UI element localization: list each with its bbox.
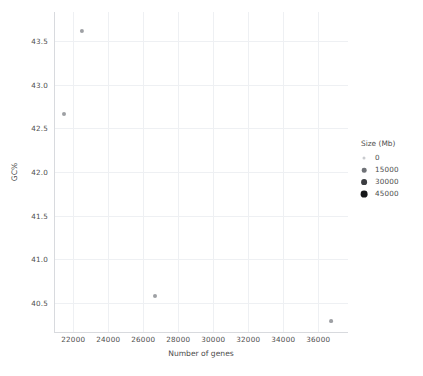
gridline-horizontal — [54, 85, 348, 86]
legend-entry[interactable]: 15000 — [361, 164, 421, 176]
legend-entry[interactable]: 45000 — [361, 188, 421, 200]
plot-area — [54, 12, 348, 332]
x-axis-tick-label: 24000 — [96, 335, 120, 344]
gridline-horizontal — [54, 303, 348, 304]
y-axis-title: GC% — [10, 163, 19, 181]
data-point[interactable] — [153, 294, 157, 298]
legend-entry-label: 0 — [375, 152, 380, 164]
y-axis-tick-label: 42.0 — [0, 168, 48, 177]
x-axis-title: Number of genes — [54, 349, 348, 358]
gridline-vertical — [318, 12, 319, 332]
x-axis-spine — [54, 332, 348, 333]
legend-entry-label: 45000 — [375, 188, 399, 200]
gridline-vertical — [283, 12, 284, 332]
legend-marker-icon — [361, 191, 368, 198]
x-axis-tick-label: 26000 — [131, 335, 155, 344]
gridline-vertical — [73, 12, 74, 332]
legend-title: Size (Mb) — [361, 139, 421, 148]
legend: Size (Mb) 0150003000045000 — [361, 139, 421, 200]
y-axis-tick-label: 42.5 — [0, 124, 48, 133]
x-axis-tick-label: 22000 — [61, 335, 85, 344]
x-axis-tick-label: 32000 — [236, 335, 260, 344]
gridline-vertical — [248, 12, 249, 332]
gridline-horizontal — [54, 172, 348, 173]
data-point[interactable] — [329, 319, 333, 323]
data-point[interactable] — [62, 112, 66, 116]
gridline-horizontal — [54, 259, 348, 260]
gridline-vertical — [143, 12, 144, 332]
legend-entry-label: 15000 — [375, 164, 399, 176]
y-axis-tick-label: 43.5 — [0, 36, 48, 45]
gridline-vertical — [178, 12, 179, 332]
legend-entry[interactable]: 30000 — [361, 176, 421, 188]
gridline-horizontal — [54, 41, 348, 42]
legend-entries: 0150003000045000 — [361, 152, 421, 200]
x-axis-tick-label: 36000 — [306, 335, 330, 344]
y-axis-tick-label: 41.0 — [0, 255, 48, 264]
legend-entry-label: 30000 — [375, 176, 399, 188]
legend-entry[interactable]: 0 — [361, 152, 421, 164]
x-axis-tick-label: 30000 — [201, 335, 225, 344]
legend-marker-icon — [362, 168, 367, 173]
x-axis-tick-label: 34000 — [271, 335, 295, 344]
gridline-horizontal — [54, 216, 348, 217]
scatter-chart-figure: 43.543.042.542.041.541.040.5 22000240002… — [0, 0, 423, 376]
gridline-vertical — [108, 12, 109, 332]
y-axis-tick-label: 40.5 — [0, 299, 48, 308]
gridline-vertical — [213, 12, 214, 332]
data-point[interactable] — [80, 29, 84, 33]
gridline-horizontal — [54, 128, 348, 129]
x-axis-tick-label: 28000 — [166, 335, 190, 344]
legend-marker-icon — [361, 179, 367, 185]
y-axis-tick-label: 41.5 — [0, 211, 48, 220]
y-axis-tick-label: 43.0 — [0, 80, 48, 89]
legend-marker-icon — [363, 157, 366, 160]
y-axis-spine — [54, 12, 55, 332]
